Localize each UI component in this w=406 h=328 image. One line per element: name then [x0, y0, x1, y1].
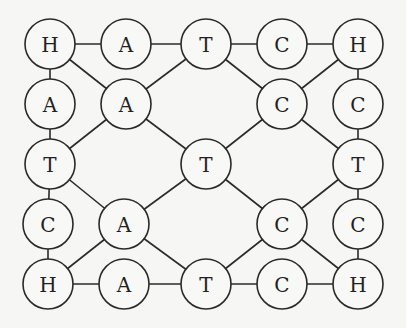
node-layer: HATCHAACCTTTCACCHATCH — [23, 19, 383, 309]
node-label: C — [350, 213, 365, 237]
node-label: C — [40, 213, 55, 237]
node-c-n8: C — [257, 79, 307, 129]
node-label: H — [41, 33, 58, 57]
node-c-n20: C — [257, 259, 307, 309]
node-c-n13: C — [23, 199, 73, 249]
node-h-n17: H — [23, 259, 73, 309]
node-t-n12: T — [333, 139, 383, 189]
node-label: T — [43, 153, 57, 177]
node-label: H — [39, 273, 56, 297]
node-t-n10: T — [25, 139, 75, 189]
node-label: C — [350, 93, 365, 117]
node-label: C — [274, 93, 289, 117]
node-label: T — [199, 153, 213, 177]
node-label: C — [274, 273, 289, 297]
letter-graph-diagram: HATCHAACCTTTCACCHATCH — [0, 0, 406, 328]
node-c-n15: C — [257, 199, 307, 249]
node-c-n16: C — [333, 199, 383, 249]
node-a-n18: A — [99, 259, 149, 309]
node-label: H — [349, 33, 366, 57]
node-h-n1: H — [25, 19, 75, 69]
node-label: C — [274, 213, 289, 237]
node-t-n3: T — [181, 19, 231, 69]
node-a-n14: A — [99, 199, 149, 249]
node-label: H — [349, 273, 366, 297]
node-label: A — [42, 93, 58, 117]
node-label: A — [116, 273, 132, 297]
node-label: T — [199, 273, 213, 297]
graph-canvas: HATCHAACCTTTCACCHATCH — [0, 0, 406, 328]
node-label: A — [116, 213, 132, 237]
node-c-n9: C — [333, 79, 383, 129]
node-a-n2: A — [101, 19, 151, 69]
node-h-n21: H — [333, 259, 383, 309]
node-t-n11: T — [181, 139, 231, 189]
node-label: A — [118, 33, 134, 57]
node-label: C — [274, 33, 289, 57]
node-a-n7: A — [101, 79, 151, 129]
node-h-n5: H — [333, 19, 383, 69]
node-label: T — [199, 33, 213, 57]
node-label: T — [351, 153, 365, 177]
node-a-n6: A — [25, 79, 75, 129]
node-c-n4: C — [257, 19, 307, 69]
node-t-n19: T — [181, 259, 231, 309]
node-label: A — [118, 93, 134, 117]
